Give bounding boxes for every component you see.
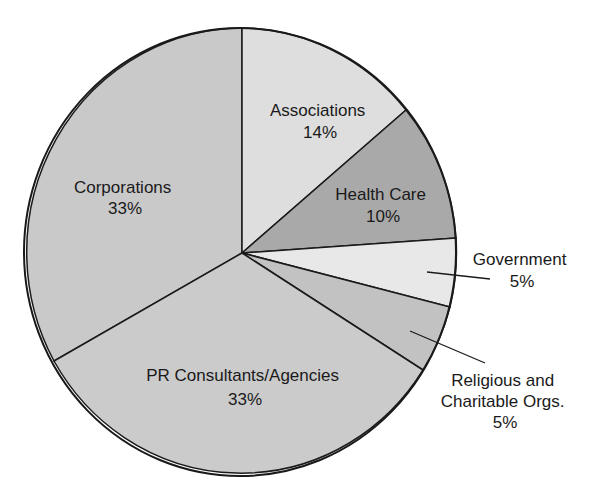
label-associations-name: Associations (270, 101, 365, 120)
label-corporations-name: Corporations (74, 178, 171, 197)
label-associations-value: 14% (303, 123, 337, 142)
label-health-care-value: 10% (366, 207, 400, 226)
label-religious-value: 5% (493, 413, 518, 432)
label-pr-value: 33% (228, 390, 262, 409)
label-corporations-value: 33% (108, 199, 142, 218)
label-health-care-name: Health Care (335, 185, 426, 204)
label-government-name: Government (473, 250, 567, 269)
label-government-value: 5% (510, 272, 535, 291)
pie-chart: Corporations 33% Associations 14% Health… (0, 0, 598, 500)
label-pr-name: PR Consultants/Agencies (146, 366, 339, 385)
label-religious-line2: Charitable Orgs. (441, 392, 565, 411)
label-religious-charitable: Religious and Charitable Orgs. 5% (441, 371, 570, 432)
label-religious-line1: Religious and (451, 371, 554, 390)
label-government: Government 5% (473, 250, 571, 291)
